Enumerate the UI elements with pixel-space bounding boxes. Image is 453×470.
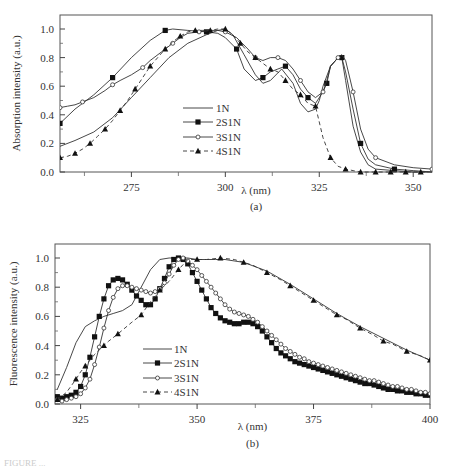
series-2S1N	[57, 28, 432, 172]
x-tick-label: 325	[72, 413, 89, 425]
y-tick-label: 0.0	[35, 398, 49, 410]
y-tick-label: 0.0	[40, 166, 54, 178]
legend: 1N2S1N3S1N4S1N	[143, 343, 199, 398]
panel-label: (b)	[246, 437, 259, 450]
x-tick-label: 325	[311, 181, 328, 193]
x-tick-label: 350	[189, 413, 206, 425]
y-tick-label: 1.0	[40, 23, 54, 35]
legend-label: 2S1N	[216, 116, 241, 128]
x-axis-title: λ (nm)	[241, 184, 271, 197]
series-4S1N	[57, 26, 428, 175]
legend-label: 3S1N	[174, 372, 199, 384]
chart-panel-b: 3253503754000.00.20.40.60.81.0λ (nm)(b)F…	[7, 244, 439, 450]
legend-label: 3S1N	[216, 131, 241, 143]
figure-canvas: 2753003253500.00.20.40.60.81.0λ (nm)(a)A…	[0, 0, 453, 470]
y-tick-label: 0.8	[40, 52, 54, 64]
x-tick-label: 350	[405, 181, 422, 193]
y-tick-label: 0.6	[35, 310, 49, 322]
series-2S1N	[55, 255, 433, 400]
x-tick-label: 275	[123, 181, 140, 193]
series-3S1N	[58, 30, 434, 171]
y-tick-label: 0.4	[35, 340, 49, 352]
legend-label: 4S1N	[174, 386, 199, 398]
legend: 1N2S1N3S1N4S1N	[183, 102, 241, 157]
legend-label: 1N	[216, 102, 230, 114]
legend-label: 2S1N	[174, 357, 199, 369]
y-tick-label: 0.2	[35, 369, 49, 381]
series-1N	[60, 29, 432, 172]
y-tick-label: 0.2	[40, 137, 54, 149]
x-axis-title: λ (nm)	[238, 420, 268, 433]
legend-label: 1N	[174, 343, 188, 355]
y-tick-label: 1.0	[35, 252, 49, 264]
y-tick-label: 0.4	[40, 109, 54, 121]
y-tick-label: 0.8	[35, 281, 49, 293]
panel-label: (a)	[250, 200, 263, 213]
y-tick-label: 0.6	[40, 80, 54, 92]
y-axis-title: Fluorescence intensity (a.u.)	[7, 261, 20, 386]
x-tick-label: 400	[422, 413, 439, 425]
y-axis-title: Absorption intensity (a.u.)	[10, 35, 23, 151]
figure-caption: FIGURE ...	[0, 458, 453, 470]
legend-label: 4S1N	[216, 145, 241, 157]
x-tick-label: 375	[305, 413, 322, 425]
chart-panel-a: 2753003253500.00.20.40.60.81.0λ (nm)(a)A…	[10, 15, 434, 213]
x-tick-label: 300	[217, 181, 234, 193]
plot-frame	[60, 15, 432, 172]
